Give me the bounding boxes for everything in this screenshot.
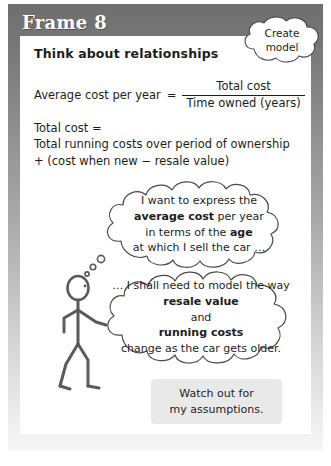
thought-cloud-shape-icon (101, 265, 301, 370)
assumptions-callout-box: Watch out for my assumptions. (151, 379, 282, 424)
assumptions-line-1: Watch out for (179, 386, 253, 402)
fraction-denominator: Time owned (years) (182, 96, 304, 111)
fraction-numerator: Total cost (212, 80, 274, 95)
create-model-cloud: Create model (239, 14, 325, 66)
total-cost-line-2: Total running costs over period of owner… (34, 136, 290, 152)
frame-title: Frame 8 (22, 12, 107, 33)
total-cost-definition: Total cost = Total running costs over pe… (34, 120, 290, 169)
assumptions-line-2: my assumptions. (170, 402, 264, 418)
thought-bubble-one: I want to express the average cost per y… (101, 176, 297, 273)
page-heading: Think about relationships (34, 46, 218, 61)
equation-left-side: Average cost per year (34, 88, 161, 102)
average-cost-equation: Average cost per year = Total cost Time … (34, 80, 305, 110)
thought-bubble-two: … I shall need to model the way resale v… (101, 265, 301, 370)
equation-equals-sign: = (167, 88, 177, 102)
total-cost-line-1: Total cost = (34, 120, 290, 136)
equation-fraction: Total cost Time owned (years) (182, 80, 304, 110)
cloud-shape-icon (239, 14, 325, 66)
thought-cloud-shape-icon (101, 176, 297, 273)
total-cost-line-3: + (cost when new − resale value) (34, 153, 290, 169)
